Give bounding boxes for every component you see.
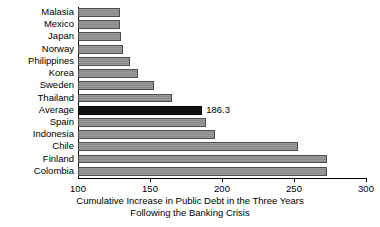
bar-mexico [78, 20, 120, 29]
category-label-sweden: Sweden [40, 79, 74, 90]
category-label-malasia: Malasia [41, 6, 74, 17]
x-axis-label-line1: Cumulative Increase in Public Debt in th… [0, 195, 380, 207]
bar-thailand [78, 94, 172, 103]
x-tick-label-200: 200 [202, 183, 242, 194]
bar-row: Chile [78, 141, 366, 153]
category-label-korea: Korea [49, 67, 74, 78]
category-label-thailand: Thailand [38, 92, 74, 103]
bar-row: Indonesia [78, 129, 366, 141]
category-label-average: Average [39, 104, 74, 115]
x-tick-300 [366, 178, 367, 182]
bar-indonesia [78, 130, 215, 139]
category-label-finland: Finland [43, 153, 74, 164]
bar-finland [78, 155, 327, 164]
x-tick-label-100: 100 [58, 183, 98, 194]
bar-row: Philippines [78, 56, 366, 68]
x-tick-label-150: 150 [130, 183, 170, 194]
category-label-spain: Spain [50, 116, 74, 127]
category-label-japan: Japan [48, 30, 74, 41]
bar-row: Japan [78, 31, 366, 43]
bar-colombia [78, 167, 327, 176]
bar-row: Norway [78, 44, 366, 56]
bar-sweden [78, 81, 154, 90]
bar-row: Colombia [78, 166, 366, 178]
bar-row: Spain [78, 117, 366, 129]
bar-row: Sweden [78, 80, 366, 92]
x-tick-250 [294, 178, 295, 182]
bar-japan [78, 32, 121, 41]
x-tick-200 [222, 178, 223, 182]
bar-korea [78, 69, 138, 78]
category-label-norway: Norway [42, 43, 74, 54]
bar-chile [78, 142, 298, 151]
x-tick-label-300: 300 [346, 183, 380, 194]
x-tick-label-250: 250 [274, 183, 314, 194]
bar-row: Korea [78, 68, 366, 80]
bar-row: Malasia [78, 7, 366, 19]
bar-row: Average186.3 [78, 105, 366, 117]
bar-philippines [78, 57, 130, 66]
category-label-mexico: Mexico [44, 18, 74, 29]
bar-spain [78, 118, 206, 127]
x-axis-label: Cumulative Increase in Public Debt in th… [0, 195, 380, 218]
bar-norway [78, 45, 123, 54]
category-label-chile: Chile [52, 140, 74, 151]
x-axis-label-line2: Following the Banking Crisis [0, 207, 380, 219]
x-tick-150 [150, 178, 151, 182]
bar-malasia [78, 8, 120, 17]
category-label-indonesia: Indonesia [33, 128, 74, 139]
bar-chart: MalasiaMexicoJapanNorwayPhilippinesKorea… [0, 0, 380, 227]
bar-average [78, 106, 202, 115]
category-label-colombia: Colombia [34, 165, 74, 176]
bar-row: Mexico [78, 19, 366, 31]
bar-row: Finland [78, 154, 366, 166]
bar-row: Thailand [78, 93, 366, 105]
plot-area: MalasiaMexicoJapanNorwayPhilippinesKorea… [78, 7, 366, 178]
category-label-philippines: Philippines [28, 55, 74, 66]
data-label-average: 186.3 [206, 104, 230, 115]
